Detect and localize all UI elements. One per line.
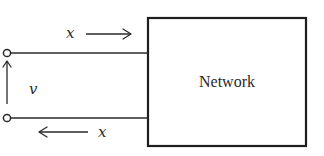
bottom-current-label: x [98, 123, 107, 141]
top-current-arrow [86, 29, 131, 39]
network-label: Network [199, 73, 255, 90]
bottom-terminal [3, 114, 10, 121]
network-block: Network [148, 18, 306, 146]
bottom-current-arrow [39, 127, 88, 137]
voltage-arrow [3, 61, 11, 104]
top-current-label: x [66, 24, 75, 42]
voltage-label: v [29, 80, 38, 98]
network-diagram: Network v x x [0, 0, 324, 156]
top-terminal [3, 49, 10, 56]
